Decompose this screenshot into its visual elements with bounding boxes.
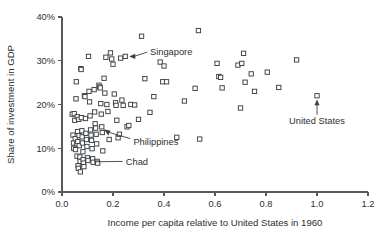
data-point [110,57,114,61]
data-point [92,110,96,114]
data-point [243,80,247,84]
data-point [104,55,108,59]
data-point [115,118,119,122]
data-point [87,89,91,93]
x-axis-ticks: 0.00.20.40.60.81.01.2 [56,192,375,209]
annotation-label: Philippines [133,137,178,147]
data-point [101,149,105,153]
data-point [111,62,115,66]
data-point [215,61,219,65]
data-point [107,137,111,141]
data-point [102,76,106,80]
data-point [106,109,110,113]
data-point [86,54,90,58]
data-point [94,126,98,130]
x-tick-label: 0.4 [158,199,171,209]
annotation-arrow-head [104,129,111,135]
data-point [139,34,143,38]
data-point [105,102,109,106]
data-point [88,128,92,132]
y-axis-ticks: 0%10%20%30%40% [36,12,62,197]
data-point [241,51,245,55]
data-point [119,56,123,60]
data-point [315,94,319,98]
data-point [136,117,140,121]
y-tick-label: 30% [36,56,55,66]
annotation-arrow-head [314,100,319,106]
data-point [294,58,298,62]
data-point [240,61,244,65]
x-tick-label: 0.0 [56,199,69,209]
data-point [127,123,131,127]
axes-group: 0%10%20%30%40% 0.00.20.40.60.81.01.2 [36,12,374,209]
data-point [277,85,281,89]
data-point [93,122,97,126]
data-point [252,89,256,93]
annotation-label: United States [289,116,345,126]
data-point [92,87,96,91]
scatter-chart-figure: 0%10%20%30%40% 0.00.20.40.60.81.01.2 Sin… [0,0,387,237]
data-point [86,158,90,162]
data-point [82,164,86,168]
data-point-markers [70,28,319,174]
data-point [94,132,98,136]
data-point [84,137,88,141]
data-point [95,142,99,146]
y-tick-label: 40% [36,12,55,22]
chart-canvas: 0%10%20%30%40% 0.00.20.40.60.81.01.2 Sin… [0,0,387,237]
data-point [100,125,104,129]
x-tick-label: 0.6 [209,199,222,209]
data-point [220,86,224,90]
data-point [112,92,116,96]
data-point [87,100,91,104]
data-point [148,110,152,114]
y-tick-label: 0% [42,187,55,197]
annotation-arrow-head [129,54,135,59]
data-point [99,101,103,105]
data-point [83,116,87,120]
data-point [85,144,89,148]
data-point [198,137,202,141]
data-point [88,114,92,118]
data-point [120,98,124,102]
data-point [152,94,156,98]
data-point [123,54,127,58]
x-tick-label: 1.2 [362,199,375,209]
data-point [98,86,102,90]
y-tick-label: 20% [36,100,55,110]
annotation-label: Chad [126,157,148,167]
data-point [218,75,222,79]
data-point [265,70,269,74]
data-point [84,131,88,135]
annotation-leader-line [134,52,147,56]
annotation-label: Singapore [150,47,192,57]
data-point [83,94,87,98]
data-point [79,67,83,71]
data-point [78,170,82,174]
y-tick-label: 10% [36,144,55,154]
data-point [182,99,186,103]
data-point [90,147,94,151]
y-axis-title: Share of investment in GDP [5,45,16,164]
data-point [74,80,78,84]
data-point [108,51,112,55]
data-point [103,91,107,95]
data-point [162,64,166,68]
data-point [89,133,93,137]
x-tick-label: 0.8 [260,199,273,209]
data-point [133,103,137,107]
data-point [100,130,104,134]
data-point [121,103,125,107]
data-point [249,72,253,76]
data-point [193,86,197,90]
data-point [81,150,85,154]
data-point [164,80,168,84]
data-point [99,112,103,116]
data-point [114,103,118,107]
data-point [89,138,93,142]
data-point [238,106,242,110]
data-point [74,97,78,101]
data-point [196,28,200,32]
data-point [143,77,147,81]
x-tick-label: 1.0 [311,199,324,209]
